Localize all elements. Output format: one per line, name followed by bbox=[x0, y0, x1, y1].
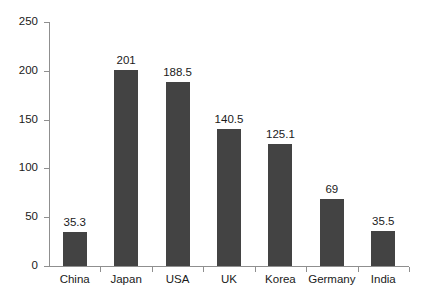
bar bbox=[371, 231, 395, 266]
x-axis-category-label: Japan bbox=[110, 274, 141, 286]
y-axis-tick bbox=[44, 22, 49, 23]
x-axis-tick bbox=[100, 267, 101, 272]
plot-area: 050100150200250 35.3201188.5140.5125.169… bbox=[49, 22, 409, 267]
bar-value-label: 188.5 bbox=[163, 67, 192, 79]
bar-value-label: 35.3 bbox=[64, 216, 86, 228]
x-axis-category-label: Korea bbox=[265, 274, 296, 286]
x-axis-tick bbox=[152, 267, 153, 272]
x-axis-category-label: UK bbox=[221, 274, 237, 286]
y-axis-line bbox=[49, 22, 50, 267]
bar bbox=[268, 144, 292, 266]
bar-value-label: 35.5 bbox=[372, 216, 394, 228]
bar-value-label: 69 bbox=[325, 183, 338, 195]
bar-chart: 050100150200250 35.3201188.5140.5125.169… bbox=[0, 0, 421, 301]
bar bbox=[217, 129, 241, 266]
y-axis-tick bbox=[44, 266, 49, 267]
x-axis-category-label: Germany bbox=[308, 274, 355, 286]
bar-value-label: 201 bbox=[117, 54, 136, 66]
y-axis-tick-label: 50 bbox=[25, 211, 38, 223]
bar-value-label: 140.5 bbox=[215, 113, 244, 125]
x-axis-category-label: China bbox=[60, 274, 90, 286]
bar-value-label: 125.1 bbox=[266, 128, 295, 140]
bar bbox=[166, 82, 190, 266]
x-axis-line bbox=[49, 266, 409, 267]
y-axis-tick bbox=[44, 217, 49, 218]
x-axis-tick bbox=[358, 267, 359, 272]
bar bbox=[114, 70, 138, 266]
y-axis-tick bbox=[44, 168, 49, 169]
y-axis-tick bbox=[44, 120, 49, 121]
x-axis-tick bbox=[409, 267, 410, 272]
x-axis-tick bbox=[255, 267, 256, 272]
bar bbox=[320, 199, 344, 266]
x-axis-category-label: USA bbox=[166, 274, 190, 286]
y-axis-tick-label: 200 bbox=[19, 65, 38, 77]
y-axis-tick-label: 0 bbox=[32, 260, 38, 272]
x-axis-category-label: India bbox=[371, 274, 396, 286]
x-axis-tick bbox=[306, 267, 307, 272]
x-axis-tick bbox=[203, 267, 204, 272]
y-axis-tick-label: 250 bbox=[19, 16, 38, 28]
y-axis-tick-label: 100 bbox=[19, 163, 38, 175]
y-axis-tick bbox=[44, 71, 49, 72]
bar bbox=[63, 232, 87, 266]
y-axis-tick-label: 150 bbox=[19, 114, 38, 126]
